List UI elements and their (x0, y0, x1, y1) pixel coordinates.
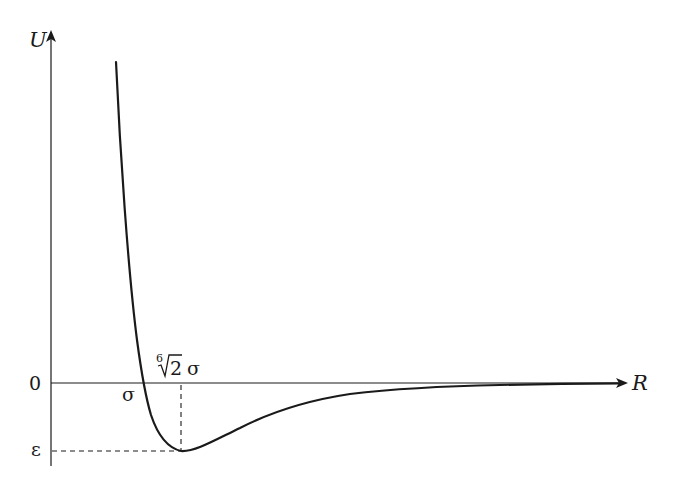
potential-diagram: U R 0 ε σ 6 2 σ (0, 0, 679, 484)
potential-curve (116, 62, 620, 451)
root-index: 6 (156, 352, 163, 365)
zero-label: 0 (29, 372, 41, 394)
minimum-position-label: 6 2 σ (156, 352, 200, 379)
min-sigma-label: σ (187, 357, 200, 379)
root-radicand: 2 (170, 357, 182, 379)
well-depth-label: ε (31, 438, 41, 460)
y-axis-label: U (29, 28, 48, 52)
x-axis-label: R (631, 371, 648, 395)
sigma-label: σ (122, 383, 135, 405)
